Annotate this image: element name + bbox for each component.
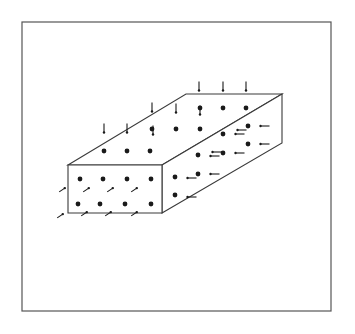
vertical-tick-head: [175, 111, 177, 113]
horizontal-tick-head: [186, 177, 188, 179]
right-face-dot: [221, 151, 226, 156]
block-front-face: [68, 165, 162, 213]
horizontal-tick-head: [234, 133, 236, 135]
block-diagram: [0, 0, 355, 334]
horizontal-tick-head: [259, 143, 261, 145]
top-face-dot: [148, 149, 153, 154]
diagonal-tick-head: [110, 211, 112, 213]
vertical-tick-head: [198, 89, 200, 91]
right-face-dot: [173, 175, 178, 180]
top-face-dot: [244, 106, 249, 111]
diagonal-tick-head: [86, 211, 88, 213]
front-face-dot: [98, 202, 103, 207]
top-face-dot: [198, 106, 203, 111]
top-face-dot: [125, 149, 130, 154]
top-face-dot: [221, 106, 226, 111]
diagonal-tick-head: [136, 187, 138, 189]
front-face-dot: [123, 202, 128, 207]
diagonal-tick-head: [64, 187, 66, 189]
right-face-dot: [221, 132, 226, 137]
diagonal-tick-head: [88, 187, 90, 189]
vertical-tick-head: [103, 131, 105, 133]
top-face-dot: [102, 149, 107, 154]
top-face-dot: [150, 127, 155, 132]
horizontal-tick-head: [211, 151, 213, 153]
horizontal-tick-head: [236, 129, 238, 131]
horizontal-tick-head: [259, 125, 261, 127]
front-face-dot: [78, 177, 83, 182]
vertical-tick-head: [199, 113, 201, 115]
vertical-tick-head: [151, 110, 153, 112]
diagonal-tick-head: [112, 187, 114, 189]
top-face-dot: [198, 127, 203, 132]
right-face-dot: [173, 193, 178, 198]
diagonal-tick-head: [136, 211, 138, 213]
front-face-dot: [125, 177, 130, 182]
right-face-dot: [196, 172, 201, 177]
diagonal-tick-head: [62, 213, 64, 215]
horizontal-tick-head: [186, 196, 188, 198]
front-face-dot: [149, 177, 154, 182]
horizontal-tick-head: [234, 152, 236, 154]
vertical-tick-head: [222, 89, 224, 91]
top-face-dot: [174, 127, 179, 132]
vertical-tick-head: [126, 131, 128, 133]
front-face-dot: [101, 177, 106, 182]
right-face-dot: [246, 124, 251, 129]
front-face-dot: [76, 202, 81, 207]
right-face-dot: [246, 142, 251, 147]
front-face-dot: [149, 202, 154, 207]
vertical-tick-head: [152, 133, 154, 135]
horizontal-tick-head: [209, 173, 211, 175]
horizontal-tick-head: [209, 155, 211, 157]
vertical-tick-head: [245, 89, 247, 91]
right-face-dot: [196, 153, 201, 158]
